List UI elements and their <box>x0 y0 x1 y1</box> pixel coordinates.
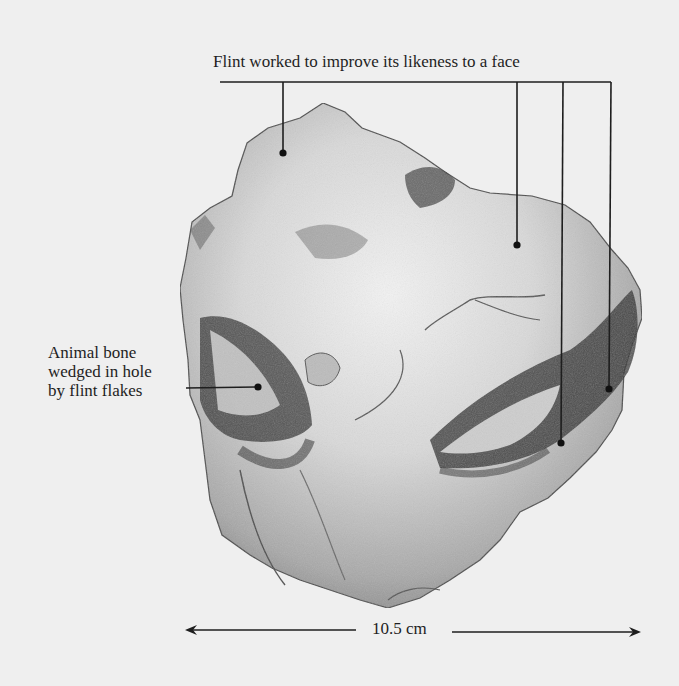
animal-bone-label-line-2: wedged in hole <box>48 362 152 381</box>
animal-bone-label-line-3: by flint flakes <box>48 381 152 400</box>
callout-dot <box>513 241 520 248</box>
callout-dot <box>254 383 261 390</box>
animal-bone-label-line-1: Animal bone <box>48 343 152 362</box>
callout-dot <box>279 149 286 156</box>
scale-label: 10.5 cm <box>366 619 433 638</box>
flint-stone <box>180 103 642 608</box>
callout-dot <box>605 385 612 392</box>
figure-canvas: Flint worked to improve its likeness to … <box>0 0 679 686</box>
callout-dot <box>557 439 564 446</box>
flint-worked-label: Flint worked to improve its likeness to … <box>213 52 520 71</box>
animal-bone-label: Animal bone wedged in hole by flint flak… <box>48 343 152 400</box>
